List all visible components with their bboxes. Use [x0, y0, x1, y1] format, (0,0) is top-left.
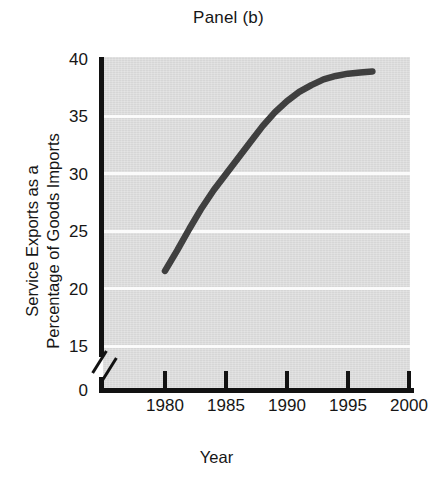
plot-background-texture [103, 57, 410, 390]
gridline-25 [103, 230, 410, 233]
x-tick-1980 [163, 371, 167, 389]
chart-figure: Panel (b) Service Exports as a Percentag… [0, 0, 429, 489]
y-axis-label-line-1: Service Exports as a [22, 111, 43, 371]
gridline-35 [103, 115, 410, 118]
y-tick-label-15: 15 [54, 337, 88, 357]
x-tick-label-2000: 2000 [374, 396, 429, 416]
x-axis-line [99, 388, 414, 393]
gridline-30 [103, 172, 410, 175]
x-tick-label-1980: 1980 [130, 396, 200, 416]
x-tick-1995 [346, 371, 350, 389]
x-axis-label-text: Year [200, 448, 233, 467]
y-axis-line [99, 57, 104, 357]
x-tick-label-1985: 1985 [191, 396, 261, 416]
y-axis-break-icon [88, 348, 122, 386]
y-tick-label-0: 0 [54, 381, 88, 401]
x-tick-label-1990: 1990 [252, 396, 322, 416]
axis-break-slash-2 [101, 357, 117, 381]
y-tick-label-25: 25 [54, 222, 88, 242]
x-tick-1985 [224, 371, 228, 389]
gridline-15 [103, 345, 410, 348]
y-tick-label-40: 40 [54, 50, 88, 70]
chart-title-text: Panel (b) [193, 8, 264, 28]
plot-area [103, 57, 410, 390]
axis-break-slash-1 [91, 350, 107, 374]
x-tick-label-1995: 1995 [313, 396, 383, 416]
y-tick-label-30: 30 [54, 165, 88, 185]
y-tick-label-35: 35 [54, 107, 88, 127]
x-tick-1990 [285, 371, 289, 389]
x-tick-2000 [407, 371, 411, 389]
gridline-20 [103, 287, 410, 290]
x-axis-label: Year [0, 448, 429, 467]
y-tick-label-20: 20 [54, 280, 88, 300]
chart-title: Panel (b) [0, 8, 429, 28]
